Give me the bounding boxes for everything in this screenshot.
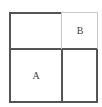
vertical-divider bbox=[61, 49, 63, 102]
cell-label-a: A bbox=[32, 71, 39, 81]
cell-b-top-border bbox=[62, 12, 98, 13]
cell-b-left-border bbox=[61, 12, 62, 49]
frame-bottom-edge bbox=[9, 101, 98, 103]
frame-left-edge bbox=[9, 12, 11, 103]
cell-b-right-border bbox=[97, 12, 98, 49]
frame-top-edge bbox=[9, 12, 62, 14]
frame-right-edge bbox=[96, 49, 98, 103]
horizontal-divider bbox=[9, 48, 62, 50]
horizontal-divider-right bbox=[62, 48, 98, 50]
cell-label-b: B bbox=[77, 26, 84, 36]
